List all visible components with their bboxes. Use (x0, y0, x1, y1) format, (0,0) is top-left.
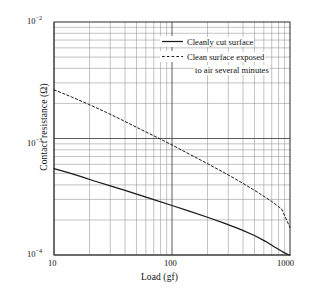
chart-figure: 10−2 10−3 10−4 10 100 1000 Load (gf) Con… (0, 0, 319, 296)
legend-label-cleanly-cut-surface: Cleanly cut surface (186, 37, 254, 47)
legend-label-clean-surface-exposed: Clean surface exposed (186, 52, 265, 62)
x-axis-title: Load (gf) (0, 272, 319, 282)
y-axis-title-wrap: Contact resistance (Ω) (33, 0, 51, 257)
legend-label-to-air-several-minutes: to air several minutes (194, 65, 270, 75)
y-axis-title: Contact resistance (Ω) (39, 83, 49, 170)
x-tick-label-100: 100 (164, 258, 177, 268)
x-tick-label-10: 10 (48, 258, 57, 268)
legend-line-samples (160, 36, 186, 62)
x-tick-label-1000: 1000 (277, 258, 294, 268)
